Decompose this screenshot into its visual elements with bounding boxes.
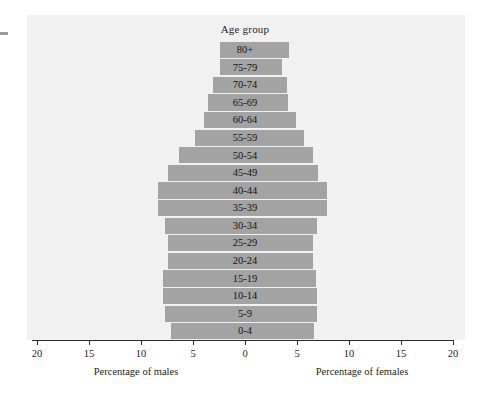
bar-row: 60-64 xyxy=(0,111,488,129)
bar-row: 0-4 xyxy=(0,322,488,340)
bar-row: 30-34 xyxy=(0,217,488,235)
bar-row: 75-79 xyxy=(0,59,488,77)
bar-male xyxy=(165,306,245,322)
x-axis-caption-males: Percentage of males xyxy=(36,366,236,377)
bar-male xyxy=(179,147,245,163)
bar-female xyxy=(245,77,287,93)
bar-male xyxy=(163,288,245,304)
x-axis-tick-label: 10 xyxy=(329,348,369,359)
bar-male xyxy=(213,77,245,93)
bar-female xyxy=(245,94,288,110)
bar-female xyxy=(245,306,317,322)
x-axis-tick xyxy=(349,340,350,345)
x-axis-tick xyxy=(297,340,298,345)
bar-female xyxy=(245,270,316,286)
chart-title-text: Age group xyxy=(221,23,270,35)
x-axis-tick-label: 0 xyxy=(225,348,265,359)
bar-male xyxy=(171,323,245,339)
x-axis-tick xyxy=(141,340,142,345)
bars-area: 80+75-7970-7465-6960-6455-5950-5445-4940… xyxy=(0,41,488,340)
x-axis-tick-label: 5 xyxy=(173,348,213,359)
bar-male xyxy=(220,42,245,58)
bar-female xyxy=(245,235,313,251)
x-axis-caption-females: Percentage of females xyxy=(262,366,462,377)
bar-male xyxy=(158,200,245,216)
x-axis-tick xyxy=(89,340,90,345)
bar-row: 15-19 xyxy=(0,270,488,288)
bar-row: 70-74 xyxy=(0,76,488,94)
bar-male xyxy=(168,235,245,251)
bar-male xyxy=(195,130,245,146)
bar-row: 65-69 xyxy=(0,94,488,112)
bar-female xyxy=(245,112,296,128)
x-axis-tick-label: 10 xyxy=(121,348,161,359)
bar-female xyxy=(245,165,318,181)
x-axis-tick xyxy=(401,340,402,345)
x-axis-tick xyxy=(37,340,38,345)
x-axis-tick xyxy=(193,340,194,345)
bar-female xyxy=(245,42,289,58)
x-axis-line xyxy=(32,340,453,341)
bar-female xyxy=(245,218,317,234)
x-axis-tick xyxy=(453,340,454,345)
bar-row: 80+ xyxy=(0,41,488,59)
x-axis-tick-label: 20 xyxy=(433,348,473,359)
bar-female xyxy=(245,253,313,269)
bar-female xyxy=(245,147,313,163)
bar-male xyxy=(158,182,245,198)
bar-row: 10-14 xyxy=(0,287,488,305)
chart-title: Age group xyxy=(0,23,488,35)
x-axis-tick-label: 15 xyxy=(69,348,109,359)
bar-male xyxy=(168,253,245,269)
bar-female xyxy=(245,288,317,304)
x-axis-tick xyxy=(245,340,246,345)
bar-female xyxy=(245,59,282,75)
bar-female xyxy=(245,323,314,339)
bar-row: 50-54 xyxy=(0,147,488,165)
bar-male xyxy=(220,59,245,75)
x-axis-tick-label: 15 xyxy=(381,348,421,359)
bar-row: 25-29 xyxy=(0,234,488,252)
bar-female xyxy=(245,182,327,198)
bar-row: 55-59 xyxy=(0,129,488,147)
bar-row: 20-24 xyxy=(0,252,488,270)
bar-row: 5-9 xyxy=(0,305,488,323)
bar-male xyxy=(163,270,245,286)
bar-male xyxy=(168,165,245,181)
x-axis-tick-label: 20 xyxy=(17,348,57,359)
bar-row: 35-39 xyxy=(0,199,488,217)
bar-male xyxy=(204,112,245,128)
bar-row: 45-49 xyxy=(0,164,488,182)
bar-male xyxy=(165,218,245,234)
population-pyramid-chart: Age group 80+75-7970-7465-6960-6455-5950… xyxy=(0,0,488,395)
bar-female xyxy=(245,130,304,146)
bar-male xyxy=(208,94,245,110)
bar-row: 40-44 xyxy=(0,182,488,200)
x-axis-tick-label: 5 xyxy=(277,348,317,359)
bar-female xyxy=(245,200,327,216)
